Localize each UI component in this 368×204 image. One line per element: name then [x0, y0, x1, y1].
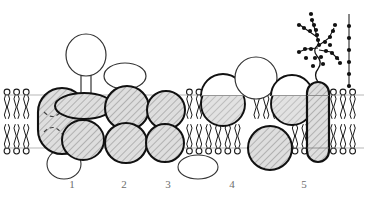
phospholipid-outer: [14, 89, 20, 118]
glycan-sugar-dot: [297, 50, 301, 54]
glycan-sugar-dot: [319, 55, 323, 59]
glycan-sugar-dot: [313, 56, 317, 60]
phospholipid-inner: [292, 125, 298, 154]
phospholipid-outer: [23, 89, 29, 118]
linear-oligosaccharide-chain: [347, 14, 351, 88]
phospholipid-inner: [350, 125, 356, 154]
glycolipid-sugar-dot: [347, 60, 351, 64]
glycan-sugar-dot: [297, 23, 301, 27]
phospholipid-inner: [187, 125, 193, 154]
phospholipid-inner: [196, 125, 202, 154]
glycan-sugar-dot: [317, 43, 321, 47]
phospholipid-inner: [215, 125, 221, 154]
phospholipid-inner: [235, 125, 241, 154]
protein-3-lower-lobe: [105, 123, 147, 163]
protein-2-lower-lobe: [62, 120, 104, 160]
phospholipid-inner: [331, 125, 337, 154]
protein-8-glycoprotein-capsule: [307, 82, 329, 162]
glycolipid-sugar-dot: [347, 36, 351, 40]
glycan-sugar-dot: [330, 51, 334, 55]
protein-8-glycoprotein-group: [307, 82, 329, 162]
glycan-sugar-dot: [331, 29, 335, 33]
membrane-diagram-figure: 1 2 3 4 5: [0, 0, 368, 204]
glycan-sugar-dot: [310, 18, 314, 22]
branched-oligosaccharide-chain: [297, 12, 342, 82]
glycan-sugar-dot: [304, 56, 308, 60]
glycan-sugar-dot: [315, 33, 319, 37]
phospholipid-inner: [340, 125, 346, 154]
glycan-sugar-dot: [312, 23, 316, 27]
protein-2-extracellular-stalk-head: [66, 34, 106, 76]
phospholipid-inner: [225, 125, 231, 154]
protein-4-intracellular-ellipse: [178, 155, 218, 179]
phospholipid-outer: [331, 89, 337, 118]
glycan-sugar-dot: [309, 12, 313, 16]
phospholipid-outer: [4, 89, 10, 118]
glycolipid-sugar-dot: [347, 24, 351, 28]
glycan-sugar-dot: [335, 56, 339, 60]
glycolipid-sugar-dot: [347, 48, 351, 52]
phospholipid-outer: [340, 89, 346, 118]
phospholipid-inner: [4, 125, 10, 154]
protein-2-stalk-fill: [81, 74, 91, 94]
membrane-diagram-canvas: [0, 0, 368, 204]
glycan-sugar-dot: [333, 23, 337, 27]
glycan-sugar-dot: [308, 29, 312, 33]
phospholipid-inner: [23, 125, 29, 154]
glycan-sugar-dot: [324, 49, 328, 53]
protein-4-lower-lobe: [146, 124, 184, 162]
protein-6-inner-leaflet-circle: [248, 126, 292, 170]
glycan-sugar-dot: [316, 38, 320, 42]
glycan-sugar-dot: [314, 28, 318, 32]
glycan-sugar-dot: [328, 43, 332, 47]
phospholipid-inner: [206, 125, 212, 154]
glycan-sugar-dot: [311, 64, 315, 68]
glycolipid-sugar-dot: [347, 72, 351, 76]
glycan-sugar-dot: [321, 62, 325, 66]
glycolipid-sugar-dot: [347, 84, 351, 88]
glycan-sugar-dot: [323, 40, 327, 44]
phospholipid-inner: [14, 125, 20, 154]
protein-3-group: [104, 63, 149, 163]
phospholipid-outer: [187, 89, 193, 118]
phospholipid-outer: [350, 89, 356, 118]
glycan-sugar-dot: [328, 35, 332, 39]
glycan-sugar-dot: [309, 47, 313, 51]
glycan-sugar-dot: [302, 26, 306, 30]
glycan-sugar-dot: [338, 61, 342, 65]
glycan-sugar-dot: [303, 47, 307, 51]
